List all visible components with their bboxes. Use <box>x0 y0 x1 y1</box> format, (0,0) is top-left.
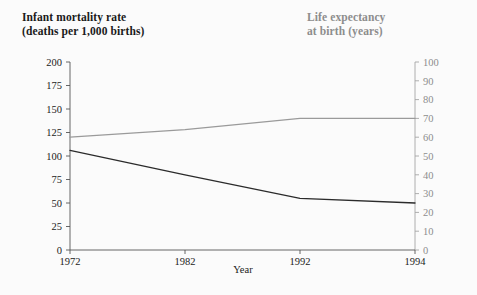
right-axis: 0102030405060708090100 <box>415 57 439 256</box>
left-axis-tick-label: 25 <box>52 221 63 232</box>
right-axis-tick-label: 20 <box>423 207 434 218</box>
line-chart-plot: 0255075100125150175200 01020304050607080… <box>0 0 477 295</box>
series-line-life-expectancy-at-birth <box>70 118 415 137</box>
left-axis-tick-label: 175 <box>46 80 62 91</box>
right-axis-tick-label: 70 <box>423 113 434 124</box>
left-axis-tick-label: 150 <box>46 104 62 115</box>
left-axis-tick-label: 0 <box>57 245 62 256</box>
series-line-infant-mortality-rate <box>70 150 415 203</box>
right-axis-tick-label: 50 <box>423 151 434 162</box>
left-axis-tick-label: 50 <box>52 198 63 209</box>
x-axis-tick-label: 1972 <box>60 256 81 267</box>
x-axis-tick-label: 1994 <box>405 256 427 267</box>
right-axis-tick-label: 0 <box>423 245 428 256</box>
x-axis-label: Year <box>233 264 253 275</box>
chart-container: Infant mortality rate (deaths per 1,000 … <box>0 0 477 295</box>
left-axis: 0255075100125150175200 <box>46 57 70 256</box>
data-series-group <box>70 118 415 203</box>
right-axis-tick-label: 40 <box>423 170 434 181</box>
right-axis-tick-label: 100 <box>423 57 439 68</box>
right-axis-tick-label: 30 <box>423 188 434 199</box>
x-axis-tick-label: 1982 <box>175 256 196 267</box>
left-axis-tick-label: 100 <box>46 151 62 162</box>
right-axis-tick-label: 90 <box>423 76 434 87</box>
right-axis-tick-label: 60 <box>423 132 434 143</box>
right-axis-tick-label: 80 <box>423 94 434 105</box>
left-axis-tick-label: 75 <box>52 174 63 185</box>
left-axis-tick-label: 125 <box>46 127 62 138</box>
x-axis-tick-label: 1992 <box>290 256 311 267</box>
left-axis-tick-label: 200 <box>46 57 62 68</box>
right-axis-tick-label: 10 <box>423 226 434 237</box>
